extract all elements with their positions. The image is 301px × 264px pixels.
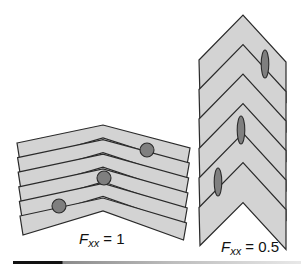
label-value: = 1 — [103, 230, 124, 247]
label-value: = 0.5 — [245, 238, 279, 255]
circle-marker — [140, 143, 154, 157]
label-subscript: xx — [88, 237, 99, 249]
label-subscript: xx — [230, 245, 241, 257]
folded-layers-diagram — [0, 0, 301, 264]
ellipse-marker — [237, 116, 245, 144]
circle-marker — [52, 199, 66, 213]
ellipse-marker — [214, 168, 222, 196]
ellipse-marker — [261, 50, 269, 78]
left-panel-label: Fxx = 1 — [79, 230, 125, 249]
label-symbol: F — [221, 238, 230, 255]
circle-marker — [97, 171, 111, 185]
right-panel-label: Fxx = 0.5 — [221, 238, 279, 257]
label-symbol: F — [79, 230, 88, 247]
